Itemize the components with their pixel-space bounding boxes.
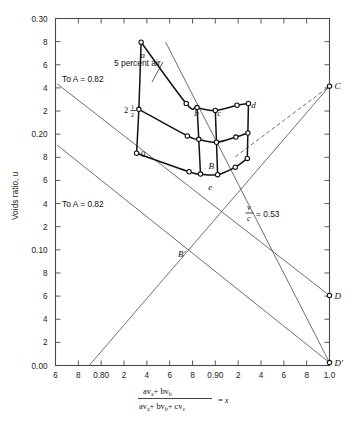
mesh-node — [234, 135, 238, 139]
fraction-denominator: 2 — [131, 111, 134, 118]
mesh-node — [245, 156, 249, 160]
annotation-to-a-upper: To A = 0.82 — [62, 74, 104, 84]
y-tick-label: 6 — [43, 176, 48, 185]
mesh-node — [246, 101, 250, 105]
mesh-node — [198, 172, 202, 176]
mesh-node — [233, 165, 237, 169]
y-tick-label: 0.00 — [32, 362, 48, 371]
y-tick-label: 0.30 — [32, 15, 48, 24]
mesh-node — [235, 103, 239, 107]
axis-node-D-prime — [327, 360, 331, 364]
point-labels-layer: abcdBeB'CDD' — [141, 50, 344, 368]
y-tick-label: 0.20 — [32, 130, 48, 139]
x-tick-label: 8 — [76, 371, 81, 380]
mesh-node — [184, 101, 188, 105]
mesh-node — [185, 134, 189, 138]
y-tick-label: 6 — [43, 292, 48, 301]
y-tick-label: 4 — [43, 84, 48, 93]
mesh-node — [187, 170, 191, 174]
point-label-D: D — [334, 291, 342, 301]
y-tick-label: 8 — [43, 153, 48, 162]
contour-label-0: 0 — [141, 150, 145, 159]
fraction-numerator: 1 — [131, 103, 134, 110]
axis-node-C — [327, 84, 331, 88]
y-tick-label: 8 — [43, 38, 48, 47]
x-tick-label: 4 — [145, 371, 150, 380]
row-5-percent-air — [141, 42, 248, 110]
plot-frame — [56, 19, 330, 366]
contour-label-2half-fraction: 1 2 — [131, 103, 137, 118]
point-label-D-prime: D' — [334, 358, 344, 368]
x-axis-formula: ava+ bvb ava+ bvb+ cvc =x — [138, 387, 229, 412]
point-label-e: e — [208, 182, 212, 192]
x-tick-label: 4 — [259, 371, 264, 380]
y-tick-label: 2 — [43, 338, 48, 347]
x-tick-label: 6 — [282, 371, 287, 380]
mesh-nodes-layer — [134, 40, 331, 365]
y-tick-label: 2 — [43, 223, 48, 232]
x-tick-label: 8 — [190, 371, 195, 380]
mesh-node — [214, 140, 218, 144]
x-tick-label: 6 — [167, 371, 172, 380]
x-tick-label: 1.0 — [324, 371, 336, 380]
annotation-five-percent-air: 5 percent air — [114, 58, 161, 68]
v-over-c-numerator: v — [247, 202, 251, 212]
mesh-node — [137, 107, 141, 111]
v-over-c-value: = 0.53 — [256, 209, 280, 219]
point-label-c: c — [217, 108, 221, 118]
point-label-d: d — [251, 100, 256, 110]
point-label-C: C — [335, 81, 342, 91]
x-tick-label: 2 — [236, 371, 241, 380]
mesh-node — [215, 172, 219, 176]
mesh-node — [246, 131, 250, 135]
annotation-v-over-c: v c = 0.53 — [246, 202, 280, 223]
voids-ratio-chart-figure: 680.8024680.9024681.00.3086420.2086420.1… — [0, 0, 361, 425]
y-tick-label: 4 — [43, 315, 48, 324]
y-tick-label: 2 — [43, 107, 48, 116]
annotation-to-a-lower: To A = 0.82 — [62, 199, 104, 209]
row-0 — [137, 153, 248, 175]
point-label-B-prime: B' — [178, 249, 186, 259]
axis-node-D — [327, 293, 331, 297]
chart-svg: 680.8024680.9024681.00.3086420.2086420.1… — [0, 0, 361, 425]
contour-label-2half-whole: 2 — [124, 106, 128, 115]
y-axis-title: Voids ratio, u — [10, 171, 20, 220]
formula-numerator: ava+ bvb — [143, 387, 172, 397]
ray-A-lower — [57, 145, 329, 362]
mesh-node — [197, 137, 201, 141]
axis-ticks-layer — [56, 19, 330, 366]
mesh-node — [134, 151, 138, 155]
y-tick-label: 4 — [43, 200, 48, 209]
y-tick-label: 8 — [43, 269, 48, 278]
point-label-B: B — [209, 161, 215, 171]
x-tick-label: 8 — [304, 371, 309, 380]
ray-C-dashed — [235, 86, 329, 157]
v-over-c-denominator: c — [247, 213, 251, 223]
mesh-node — [139, 40, 143, 44]
x-tick-label: 2 — [122, 371, 127, 380]
y-tick-label: 0.10 — [32, 246, 48, 255]
formula-equals-x: =x — [218, 396, 229, 405]
axis-tick-labels-layer: 680.8024680.9024681.00.3086420.2086420.1… — [32, 15, 336, 380]
formula-denominator: ava+ bvb+ cvc — [139, 402, 186, 412]
y-tick-label: 6 — [43, 61, 48, 70]
plot-border — [56, 19, 330, 366]
x-tick-label: 0.80 — [93, 371, 109, 380]
x-tick-label: 6 — [53, 371, 58, 380]
point-label-b: b — [194, 108, 199, 118]
x-tick-label: 0.90 — [207, 371, 223, 380]
